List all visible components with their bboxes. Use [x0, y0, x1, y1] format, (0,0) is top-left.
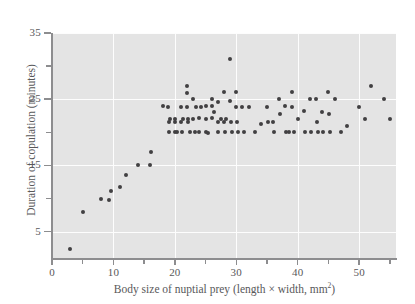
y-axis-title: Duration of copulation (minutes)	[25, 40, 37, 240]
gridline-horizontal	[52, 33, 396, 34]
data-point	[339, 130, 343, 134]
data-point	[321, 130, 325, 134]
data-point	[222, 90, 226, 94]
data-point	[242, 130, 246, 134]
data-point	[283, 104, 287, 108]
data-point	[259, 122, 263, 126]
data-point	[204, 104, 208, 108]
data-point	[191, 117, 195, 121]
data-point	[326, 90, 330, 94]
data-point	[188, 130, 192, 134]
gridline-horizontal	[52, 99, 396, 100]
data-point	[278, 112, 282, 116]
data-point	[320, 110, 324, 114]
data-point	[296, 117, 300, 121]
data-point	[236, 130, 240, 134]
data-point	[216, 130, 220, 134]
data-point	[308, 97, 312, 101]
data-point	[206, 131, 210, 135]
data-point	[223, 130, 227, 134]
y-axis-tick	[46, 132, 51, 134]
gridline-horizontal	[52, 232, 396, 233]
y-axis-tick	[44, 98, 51, 100]
x-axis-tick	[51, 259, 53, 265]
data-point	[185, 91, 189, 95]
data-point	[173, 117, 177, 121]
gridline-vertical	[175, 33, 176, 258]
x-axis-tick-label: 20	[160, 266, 190, 278]
data-point	[230, 130, 234, 134]
data-point	[247, 105, 251, 109]
data-point	[224, 117, 228, 121]
data-point	[107, 198, 111, 202]
data-point	[266, 120, 270, 124]
x-axis-title-main: Body size of nuptial prey (length × widt…	[114, 283, 328, 295]
x-axis-tick	[205, 259, 207, 264]
data-point	[216, 100, 220, 104]
data-point	[290, 90, 294, 94]
data-point	[161, 104, 165, 108]
x-axis-tick	[82, 259, 84, 264]
y-axis-tick	[44, 32, 51, 34]
data-point	[228, 57, 232, 61]
data-point	[148, 163, 152, 167]
data-point	[181, 117, 185, 121]
data-point	[271, 120, 275, 124]
data-point	[210, 97, 214, 101]
data-point	[216, 120, 220, 124]
y-axis-tick	[44, 165, 51, 167]
data-point	[99, 197, 103, 201]
data-point	[388, 117, 392, 121]
data-point	[124, 173, 128, 177]
figure-root: 515253501020304050 Duration of copulatio…	[0, 0, 415, 304]
data-point	[327, 112, 331, 116]
y-axis-tick	[46, 65, 51, 67]
data-point	[199, 105, 203, 109]
data-point	[302, 109, 306, 113]
data-point	[229, 120, 233, 124]
data-point	[382, 97, 386, 101]
data-point	[149, 150, 153, 154]
data-point	[68, 247, 72, 251]
data-point	[212, 110, 216, 114]
data-point	[118, 185, 122, 189]
data-point	[136, 163, 140, 167]
x-axis-tick-label: 40	[283, 266, 313, 278]
data-point	[197, 130, 201, 134]
x-axis-title-tail: )	[331, 283, 335, 295]
data-point	[240, 105, 244, 109]
gridline-horizontal	[52, 165, 396, 166]
data-point	[210, 104, 214, 108]
data-point	[328, 130, 332, 134]
y-axis-tick	[46, 198, 51, 200]
data-point	[265, 105, 269, 109]
data-point	[315, 120, 319, 124]
data-point	[81, 210, 85, 214]
data-point	[314, 97, 318, 101]
x-axis-tick	[389, 259, 391, 264]
x-axis-tick	[297, 259, 299, 265]
data-point	[193, 130, 197, 134]
data-point	[345, 124, 349, 128]
x-axis-tick	[328, 259, 330, 264]
data-point	[191, 97, 195, 101]
data-point	[369, 84, 373, 88]
data-point	[272, 130, 276, 134]
x-axis-tick-label: 50	[344, 266, 374, 278]
data-point	[185, 84, 189, 88]
data-point	[309, 130, 313, 134]
data-point	[303, 130, 307, 134]
data-point	[363, 117, 367, 121]
x-axis-tick	[358, 259, 360, 265]
x-axis-tick	[236, 259, 238, 265]
data-point	[197, 116, 201, 120]
data-point	[290, 105, 294, 109]
x-axis-title: Body size of nuptial prey (length × widt…	[52, 281, 397, 295]
x-axis-tick	[266, 259, 268, 264]
data-point	[180, 130, 184, 134]
plot-area	[52, 33, 396, 258]
gridline-vertical	[113, 33, 114, 258]
gridline-vertical	[236, 33, 237, 258]
x-axis-tick-label: 30	[221, 266, 251, 278]
data-point	[167, 130, 171, 134]
